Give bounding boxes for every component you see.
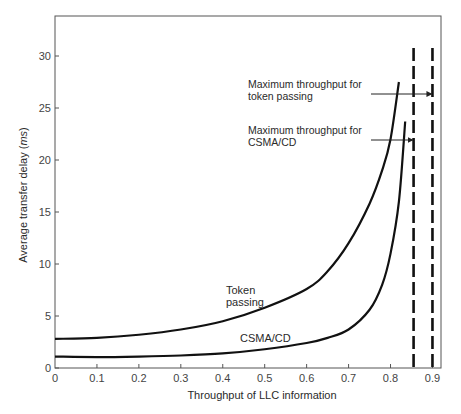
x-axis-ticks: 00.10.20.30.40.50.60.70.80.9: [52, 364, 440, 384]
max-throughput-annotation: Maximum throughput fortoken passing: [248, 78, 362, 102]
y-tick-label: 5: [45, 310, 51, 322]
x-tick-label: 0.7: [341, 372, 356, 384]
csma-cd-label: CSMA/CD: [240, 332, 291, 344]
x-tick-label: 0.3: [173, 372, 188, 384]
x-tick-label: 0: [52, 372, 58, 384]
y-tick-label: 25: [39, 102, 51, 114]
x-tick-label: 0.1: [89, 372, 104, 384]
max-throughput-lines: [414, 48, 433, 368]
token-passing-label: Tokenpassing: [226, 284, 264, 308]
x-tick-label: 0.9: [425, 372, 440, 384]
max-throughput-annotation: Maximum throughput forCSMA/CD: [248, 124, 362, 148]
x-axis-title: Throughput of LLC information: [187, 389, 336, 401]
y-axis-title: Average transfer delay (ms): [17, 127, 29, 263]
x-tick-label: 0.6: [299, 372, 314, 384]
y-tick-label: 0: [45, 362, 51, 374]
y-tick-label: 10: [39, 258, 51, 270]
y-tick-label: 30: [39, 50, 51, 62]
x-tick-label: 0.4: [215, 372, 230, 384]
x-tick-label: 0.2: [131, 372, 146, 384]
y-axis-ticks: 051015202530: [39, 50, 59, 374]
series-line: [55, 122, 405, 358]
y-tick-label: 15: [39, 206, 51, 218]
plot-frame: [55, 16, 441, 368]
y-tick-label: 20: [39, 154, 51, 166]
x-tick-label: 0.5: [257, 372, 272, 384]
chart: 051015202530 00.10.20.30.40.50.60.70.80.…: [0, 0, 461, 414]
x-tick-label: 0.8: [383, 372, 398, 384]
